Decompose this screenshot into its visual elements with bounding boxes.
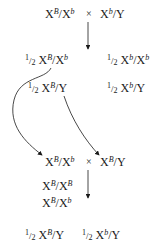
cross-symbol-1: × bbox=[86, 7, 92, 21]
f1-female-homozygous: 1/2 Xb/Xb bbox=[107, 53, 149, 68]
connector-lines bbox=[0, 0, 159, 243]
f2-female-heterozygous: XB/Xb bbox=[42, 196, 72, 210]
f1-female-heterozygous: 1/2 XB/Xb bbox=[25, 53, 68, 68]
f2-male-dominant: 1/2 XB/Y bbox=[25, 228, 64, 243]
f2-male-recessive: 1/2 Xb/Y bbox=[82, 228, 120, 243]
f2-female-homozygous: XB/XB bbox=[42, 179, 72, 193]
cross2-male-genotype: XB/Y bbox=[100, 155, 126, 169]
cross-symbol-2: × bbox=[86, 155, 92, 169]
curve-arrow-male bbox=[64, 96, 99, 155]
f1-male-recessive: 1/2 Xb/Y bbox=[107, 81, 145, 96]
cross2-female-genotype: XB/Xb bbox=[45, 155, 75, 169]
cross1-female-genotype: XB/Xb bbox=[45, 7, 75, 21]
f1-male-dominant: 1/2 XB/Y bbox=[28, 81, 67, 96]
cross1-male-genotype: Xb/Y bbox=[100, 7, 125, 21]
